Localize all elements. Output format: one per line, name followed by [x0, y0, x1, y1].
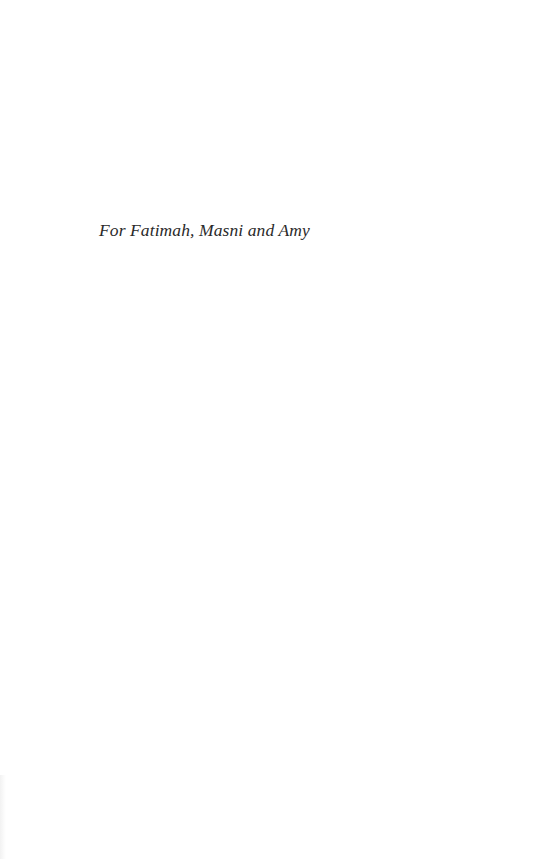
document-page: For Fatimah, Masni and Amy: [0, 0, 540, 859]
dedication-text: For Fatimah, Masni and Amy: [99, 220, 310, 240]
scan-edge-shadow: [0, 775, 6, 859]
